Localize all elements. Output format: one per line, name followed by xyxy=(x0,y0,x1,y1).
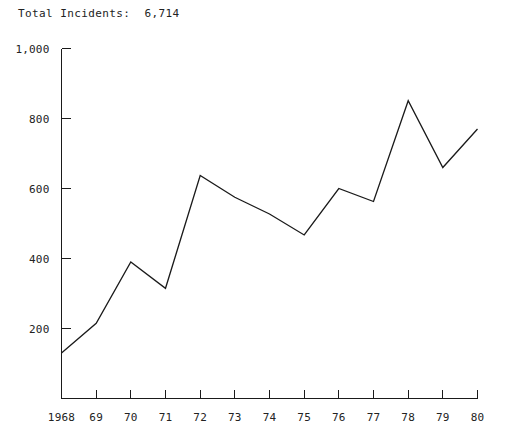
x-tick-label: 80 xyxy=(471,411,485,424)
x-tick-label: 70 xyxy=(124,411,138,424)
x-tick-label: 72 xyxy=(193,411,207,424)
x-axis: 1968697071727374757677787980 xyxy=(48,390,484,424)
y-tick-label: 600 xyxy=(29,183,49,196)
line-chart: Total Incidents: 6,714 2004006008001,000… xyxy=(0,0,508,444)
x-tick-label: 1968 xyxy=(48,411,75,424)
y-axis: 2004006008001,000 xyxy=(15,43,70,399)
x-tick-label: 74 xyxy=(263,411,277,424)
y-tick-label: 200 xyxy=(29,323,49,336)
y-tick-label: 1,000 xyxy=(15,43,49,56)
x-tick-label: 76 xyxy=(332,411,346,424)
y-tick-label: 800 xyxy=(29,113,49,126)
x-tick-label: 77 xyxy=(367,411,381,424)
data-series-total-incidents xyxy=(62,101,478,353)
x-tick-label: 75 xyxy=(297,411,311,424)
chart-plot-area: 2004006008001,000 1968697071727374757677… xyxy=(0,0,508,444)
x-tick-label: 71 xyxy=(159,411,173,424)
x-tick-label: 79 xyxy=(436,411,450,424)
x-tick-label: 78 xyxy=(401,411,415,424)
y-tick-label: 400 xyxy=(29,253,49,266)
x-tick-label: 69 xyxy=(89,411,103,424)
x-tick-label: 73 xyxy=(228,411,242,424)
